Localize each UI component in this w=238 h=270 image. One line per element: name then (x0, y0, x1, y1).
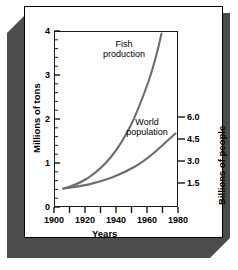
annotation-fish-production: Fish production (92, 39, 156, 60)
y-right-tick-label-6: 6.0 (187, 113, 200, 122)
x-tick-label-1960: 1960 (133, 216, 161, 225)
y-right-tick-label-3: 3.0 (187, 157, 200, 166)
y-left-tick-label-1: 1 (36, 159, 50, 168)
x-tick-label-1920: 1920 (71, 216, 99, 225)
y-left-tick-label-4: 4 (36, 27, 50, 36)
annotation-world-population-line1: World (116, 117, 178, 127)
y-left-tick-label-3: 3 (36, 71, 50, 80)
y-right-tick-label-45: 4.5 (187, 135, 200, 144)
y-right-tick-label-15: 1.5 (187, 179, 200, 188)
chart-figure: 4 3 2 1 0 6.0 4.5 3.0 1.5 1900 1920 1940… (0, 0, 238, 270)
annotation-fish-production-line1: Fish (92, 39, 156, 49)
annotation-fish-production-line2: production (92, 49, 156, 59)
annotation-world-population: World population (116, 117, 178, 138)
y-left-tick-label-0: 0 (36, 203, 50, 212)
y-right-axis-title: Billions of people (217, 126, 227, 205)
y-left-axis-title: Millions of tons (32, 83, 42, 153)
annotation-world-population-line2: population (116, 127, 178, 137)
x-tick-label-1940: 1940 (102, 216, 130, 225)
x-axis-title: Years (92, 229, 117, 239)
x-tick-label-1900: 1900 (40, 216, 68, 225)
x-tick-label-1980: 1980 (164, 216, 192, 225)
